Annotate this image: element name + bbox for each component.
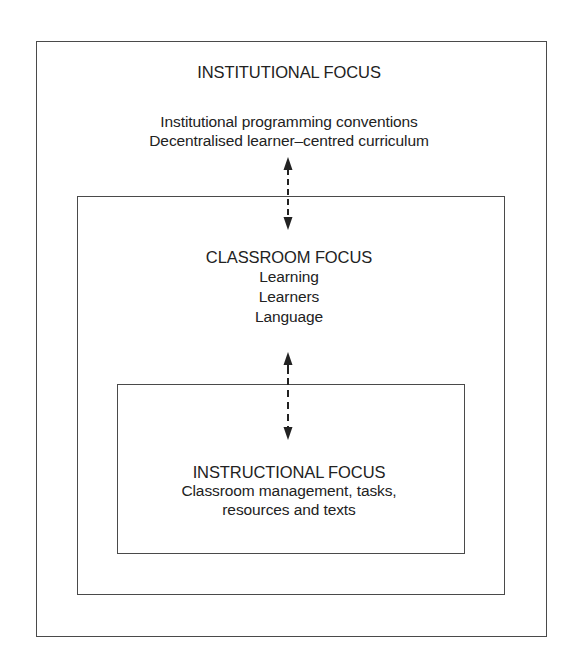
classroom-focus-title: CLASSROOM FOCUS — [0, 249, 578, 266]
institutional-focus-line: Institutional programming conventions — [0, 114, 578, 130]
institutional-focus-title: INSTITUTIONAL FOCUS — [0, 64, 578, 81]
classroom-focus-line: Language — [0, 309, 578, 325]
instructional-focus-title: INSTRUCTIONAL FOCUS — [0, 464, 578, 481]
classroom-focus-line: Learning — [0, 269, 578, 285]
instructional-focus-line: resources and texts — [0, 502, 578, 518]
instructional-focus-line: Classroom management, tasks, — [0, 483, 578, 499]
institutional-focus-line: Decentralised learner–centred curriculum — [0, 133, 578, 149]
classroom-focus-line: Learners — [0, 289, 578, 305]
